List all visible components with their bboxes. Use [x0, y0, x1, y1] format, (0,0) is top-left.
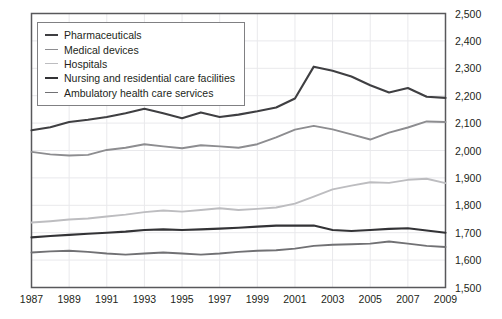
x-axis-tick-label: 1995: [170, 293, 193, 305]
legend-swatch-icon: [45, 34, 58, 36]
x-axis-tick-label: 1991: [95, 293, 118, 305]
chart-legend: PharmaceuticalsMedical devicesHospitalsN…: [37, 22, 245, 106]
series-line-4: [32, 241, 446, 254]
y-axis-tick-label: 2,000: [455, 145, 481, 157]
x-axis-tick-label: 2009: [434, 293, 457, 305]
x-axis-tick-label: 1999: [246, 293, 269, 305]
x-axis-tick-label: 1997: [208, 293, 231, 305]
y-axis-tick-label: 1,600: [455, 254, 481, 266]
y-axis-tick-label: 1,900: [455, 172, 481, 184]
x-axis-tick-label: 2005: [359, 293, 382, 305]
legend-swatch-icon: [45, 63, 58, 64]
y-axis-tick-label: 2,100: [455, 117, 481, 129]
legend-item-label: Ambulatory health care services: [64, 87, 213, 99]
x-axis-tick-label: 2007: [396, 293, 419, 305]
x-axis-tick-label: 1989: [57, 293, 80, 305]
legend-item-3[interactable]: Nursing and residential care facilities: [45, 71, 235, 85]
y-axis-tick-label: 2,200: [455, 90, 481, 102]
legend-item-0[interactable]: Pharmaceuticals: [45, 28, 235, 42]
y-axis-tick-label: 1,500: [455, 282, 481, 294]
legend-item-label: Hospitals: [64, 58, 107, 70]
legend-item-label: Pharmaceuticals: [64, 29, 142, 41]
series-line-3: [32, 226, 446, 238]
legend-item-label: Medical devices: [64, 44, 139, 56]
x-axis-tick-label: 1987: [20, 293, 43, 305]
series-line-2: [32, 179, 446, 223]
legend-swatch-icon: [45, 92, 58, 93]
y-axis-tick-label: 2,500: [455, 8, 481, 20]
y-axis-tick-label: 1,700: [455, 227, 481, 239]
y-axis-tick-label: 1,800: [455, 199, 481, 211]
x-axis-tick-label: 2001: [283, 293, 306, 305]
x-axis-tick-label: 2003: [321, 293, 344, 305]
y-axis-tick-label: 2,400: [455, 35, 481, 47]
y-axis-tick-label: 2,300: [455, 62, 481, 74]
legend-swatch-icon: [45, 77, 58, 79]
legend-item-label: Nursing and residential care facilities: [64, 72, 235, 84]
legend-item-1[interactable]: Medical devices: [45, 42, 235, 56]
line-chart-figure: PharmaceuticalsMedical devicesHospitalsN…: [0, 0, 502, 319]
legend-swatch-icon: [45, 49, 58, 50]
x-axis-tick-label: 1993: [133, 293, 156, 305]
legend-item-2[interactable]: Hospitals: [45, 57, 235, 71]
legend-item-4[interactable]: Ambulatory health care services: [45, 86, 235, 100]
